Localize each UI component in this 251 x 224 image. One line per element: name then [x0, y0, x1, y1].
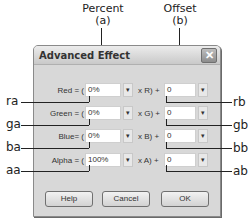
offset-callout: Offset (b) — [160, 3, 200, 27]
help-button[interactable]: Help — [45, 191, 93, 207]
close-button[interactable]: ✕ — [201, 48, 217, 63]
percent-callout-sub: (a) — [80, 15, 126, 27]
chevron-down-icon: ▾ — [201, 156, 205, 163]
green-percent-dropdown[interactable]: ▾ — [123, 106, 133, 120]
blue-offset-dropdown[interactable]: ▾ — [198, 129, 208, 143]
red-label: Red = ( — [36, 86, 84, 95]
ab-leader-line — [166, 171, 232, 172]
alpha-percent-dropdown[interactable]: ▾ — [123, 153, 133, 167]
callout-bb: bb — [233, 142, 248, 154]
red-percent-input[interactable]: 0% — [85, 83, 121, 97]
callout-ab: ab — [233, 165, 248, 177]
red-mid-label: x R) + — [138, 86, 160, 95]
bb-leader-line — [166, 148, 232, 149]
percent-callout: Percent (a) — [80, 3, 126, 27]
green-label: Green = ( — [36, 109, 84, 118]
alpha-percent-input[interactable]: 100% — [85, 153, 121, 167]
green-offset-input[interactable]: 0 — [164, 106, 196, 120]
blue-offset-input[interactable]: 0 — [164, 129, 196, 143]
alpha-label: Alpha = ( — [36, 156, 84, 165]
callout-aa: aa — [6, 164, 21, 176]
callout-ba: ba — [6, 141, 21, 153]
chevron-down-icon: ▾ — [126, 86, 130, 93]
chevron-down-icon: ▾ — [201, 132, 205, 139]
advanced-effect-dialog: Advanced Effect ✕ Red = ( 0% ▾ x R) + 0 … — [33, 45, 221, 217]
ra-leader-line — [21, 102, 89, 103]
green-mid-label: x G) + — [138, 109, 160, 118]
red-percent-dropdown[interactable]: ▾ — [123, 83, 133, 97]
callout-ga: ga — [6, 118, 21, 130]
callout-rb: rb — [233, 96, 246, 108]
green-offset-dropdown[interactable]: ▾ — [198, 106, 208, 120]
chevron-down-icon: ▾ — [126, 132, 130, 139]
cancel-button[interactable]: Cancel — [102, 191, 150, 207]
aa-leader-line — [21, 171, 89, 172]
chevron-down-icon: ▾ — [126, 156, 130, 163]
blue-mid-label: x B) + — [138, 132, 159, 141]
ba-leader-line — [21, 148, 89, 149]
ga-leader-line — [21, 125, 89, 126]
aa-leader-tick — [89, 165, 90, 171]
chevron-down-icon: ▾ — [126, 109, 130, 116]
gb-leader-line — [166, 125, 232, 126]
ga-leader-tick — [89, 119, 90, 125]
alpha-offset-dropdown[interactable]: ▾ — [198, 153, 208, 167]
offset-callout-sub: (b) — [160, 15, 200, 27]
rb-leader-line — [166, 102, 232, 103]
green-percent-input[interactable]: 0% — [85, 106, 121, 120]
blue-label: Blue= ( — [36, 132, 84, 141]
red-offset-dropdown[interactable]: ▾ — [198, 83, 208, 97]
alpha-mid-label: x A) + — [138, 156, 159, 165]
alpha-offset-input[interactable]: 0 — [164, 153, 196, 167]
ra-leader-tick — [89, 96, 90, 102]
callout-gb: gb — [233, 119, 248, 131]
ok-button[interactable]: OK — [161, 191, 209, 207]
red-offset-input[interactable]: 0 — [164, 83, 196, 97]
dialog-title: Advanced Effect — [39, 50, 130, 61]
close-icon: ✕ — [205, 49, 214, 61]
callout-ra: ra — [6, 95, 18, 107]
blue-percent-dropdown[interactable]: ▾ — [123, 129, 133, 143]
dialog-titlebar: Advanced Effect ✕ — [34, 46, 220, 65]
ba-leader-tick — [89, 142, 90, 148]
chevron-down-icon: ▾ — [201, 109, 205, 116]
blue-percent-input[interactable]: 0% — [85, 129, 121, 143]
chevron-down-icon: ▾ — [201, 86, 205, 93]
